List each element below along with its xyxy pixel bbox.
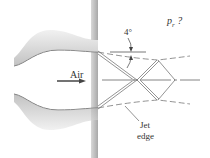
pressure-question: ? xyxy=(175,15,183,26)
flow-label: Air xyxy=(70,70,83,80)
pressure-label: pr ? xyxy=(167,16,182,29)
nozzle-diagram: Air 4° pr ? Jet edge xyxy=(0,0,210,158)
jet-edge-label-2: edge xyxy=(137,132,154,141)
angle-label: 4° xyxy=(124,28,132,37)
jet-edge-label-1: Jet xyxy=(140,121,150,130)
wall xyxy=(91,0,98,158)
